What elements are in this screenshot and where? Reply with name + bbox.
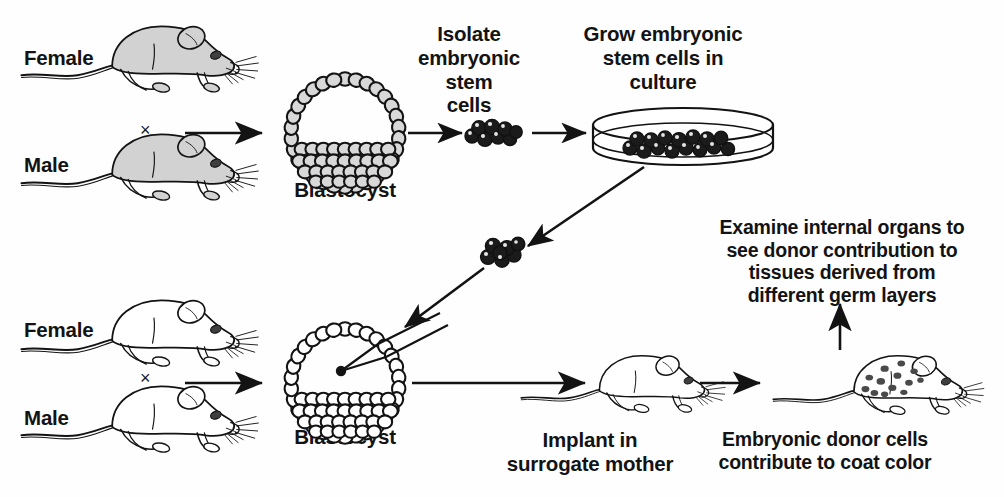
mouse-chimeric xyxy=(773,353,984,415)
arrow-culture-to-clump xyxy=(528,167,644,246)
mouse-albino-female xyxy=(21,297,258,367)
mouse-albino-male xyxy=(21,383,258,453)
mouse-agouti-female xyxy=(21,23,258,93)
blastocyst-host xyxy=(284,322,406,444)
petri-dish xyxy=(593,108,773,165)
arrow-clump-to-host-blastocyst xyxy=(405,268,484,327)
mouse-agouti-male xyxy=(21,131,258,201)
diagram-graphics xyxy=(0,0,1004,497)
es-cell-clump-injected xyxy=(481,237,525,267)
blastocyst-donor xyxy=(284,72,406,194)
figure-canvas: Female × Male Blastocyst Isolate embryon… xyxy=(0,0,1004,497)
es-cell-clump-isolated xyxy=(465,119,522,146)
